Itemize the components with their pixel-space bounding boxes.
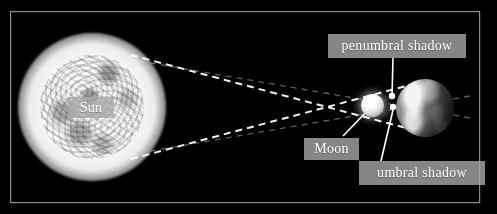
label-sun: Sun (68, 97, 114, 118)
leader-line-umbral (381, 110, 393, 161)
light-ray-lower-bright (131, 81, 425, 159)
earth-terminator (396, 79, 454, 137)
label-penumbral-shadow: penumbral shadow (328, 34, 466, 58)
moon-body (361, 94, 384, 117)
eclipse-diagram: Sun Moon penumbral shadow umbral shadow (0, 0, 497, 214)
label-umbral-shadow: umbral shadow (359, 161, 485, 185)
label-moon: Moon (304, 138, 359, 160)
leader-line-penumbral (392, 58, 393, 96)
leader-dot-penumbral (389, 93, 395, 99)
light-ray-upper-bright (131, 55, 425, 133)
